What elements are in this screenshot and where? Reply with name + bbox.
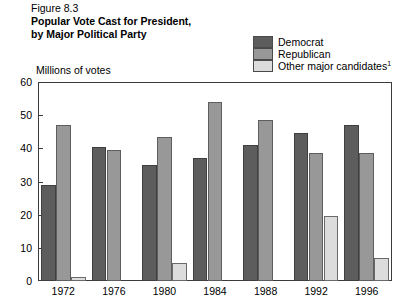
bar-other-major-candidates-1992: [324, 216, 339, 281]
chart-plot-area: 6050403020100 19721976198019841988199219…: [0, 0, 402, 301]
x-axis-tick-label: 1996: [341, 284, 392, 298]
y-axis-tick-label: 60: [0, 77, 32, 87]
bar-democrat-1980: [142, 165, 157, 281]
bar-republican-1992: [309, 153, 324, 281]
bar-republican-1976: [107, 150, 122, 281]
bar-democrat-1972: [41, 185, 56, 281]
x-axis-tick-label: 1984: [190, 284, 241, 298]
bar-other-major-candidates-1980: [172, 263, 187, 281]
bar-other-major-candidates-1972: [71, 277, 86, 281]
bar-republican-1984: [208, 102, 223, 281]
y-axis-tick-label: 0: [0, 276, 32, 286]
y-axis-tick-label: 50: [0, 110, 32, 120]
bar-republican-1972: [56, 125, 71, 281]
x-axis-tick-label: 1992: [291, 284, 342, 298]
y-axis-tick-label: 10: [0, 243, 32, 253]
bar-other-major-candidates-1996: [374, 258, 389, 281]
x-axis-tick-label: 1980: [139, 284, 190, 298]
x-axis-tick-label: 1972: [38, 284, 89, 298]
bar-republican-1988: [258, 120, 273, 281]
bar-democrat-1988: [243, 145, 258, 281]
y-axis-tick-label: 30: [0, 177, 32, 187]
x-axis: 1972197619801984198819921996: [38, 284, 392, 300]
bar-republican-1996: [359, 153, 374, 281]
x-axis-tick-label: 1988: [240, 284, 291, 298]
y-axis-tick-label: 40: [0, 143, 32, 153]
x-axis-tick-label: 1976: [89, 284, 140, 298]
bar-democrat-1992: [294, 133, 309, 281]
bar-democrat-1976: [92, 147, 107, 281]
bar-democrat-1984: [193, 158, 208, 281]
bar-republican-1980: [157, 137, 172, 281]
y-axis-tick-label: 20: [0, 210, 32, 220]
bars-layer: [38, 82, 392, 281]
bar-democrat-1996: [344, 125, 359, 281]
